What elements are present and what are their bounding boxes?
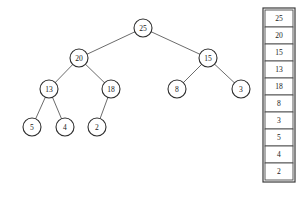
tree-edges-group: [36, 32, 235, 119]
node-label-15: 15: [204, 54, 212, 63]
tree-edge-n15-n8: [183, 64, 201, 82]
diagram-canvas: 252015131883542 252015131883542: [0, 0, 300, 210]
tree-edge-n25-n20: [87, 32, 135, 54]
tree-node-25[interactable]: 25: [134, 19, 152, 37]
node-label-5: 5: [30, 123, 34, 132]
array-cell-value: 8: [277, 99, 281, 108]
array-cell-value: 2: [277, 167, 281, 176]
array-cell-value: 15: [275, 48, 283, 57]
array-cell-value: 18: [275, 82, 283, 91]
array-column: 252015131883542: [263, 8, 295, 182]
tree-node-18[interactable]: 18: [102, 80, 120, 98]
tree-edge-n15-n3: [215, 64, 235, 83]
tree-node-2[interactable]: 2: [88, 118, 106, 136]
tree-node-15[interactable]: 15: [199, 49, 217, 67]
node-label-25: 25: [139, 24, 147, 33]
tree-node-13[interactable]: 13: [40, 80, 58, 98]
tree-node-4[interactable]: 4: [56, 118, 74, 136]
node-label-2: 2: [95, 123, 99, 132]
tree-node-8[interactable]: 8: [168, 80, 186, 98]
tree-nodes-group: 252015131883542: [23, 19, 250, 136]
tree-node-3[interactable]: 3: [232, 80, 250, 98]
array-cell-value: 25: [275, 14, 283, 23]
binary-tree-diagram: 252015131883542 252015131883542: [0, 0, 300, 210]
array-cell-value: 3: [277, 116, 281, 125]
tree-edge-n18-n2: [100, 97, 108, 118]
array-cell-value: 4: [277, 150, 281, 159]
tree-node-5[interactable]: 5: [23, 118, 41, 136]
tree-edge-n20-n18: [85, 64, 104, 82]
tree-edge-n13-n4: [52, 97, 61, 118]
node-label-20: 20: [75, 54, 83, 63]
node-label-4: 4: [63, 123, 67, 132]
tree-edge-n25-n15: [151, 32, 200, 54]
array-cell-value: 20: [275, 31, 283, 40]
array-cell-value: 5: [277, 133, 281, 142]
node-label-18: 18: [107, 85, 115, 94]
node-label-3: 3: [239, 85, 243, 94]
node-label-8: 8: [175, 85, 179, 94]
array-cell-value: 13: [275, 65, 283, 74]
tree-edge-n20-n13: [55, 64, 72, 82]
node-label-13: 13: [45, 85, 53, 94]
tree-edge-n13-n5: [36, 97, 46, 119]
tree-node-20[interactable]: 20: [70, 49, 88, 67]
